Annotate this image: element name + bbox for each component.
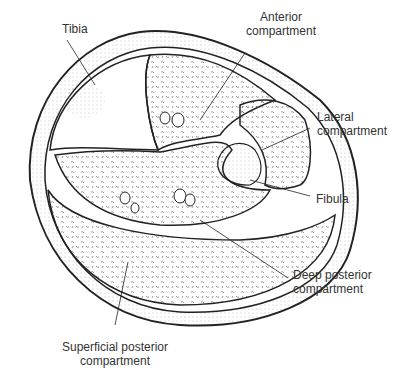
label-line: compartment [236, 24, 326, 38]
label-deep-posterior-compartment: Deep posterior compartment [293, 268, 372, 296]
label-line: compartment [55, 354, 175, 368]
label-line: Deep posterior [293, 268, 372, 282]
label-lateral-compartment: Lateral compartment [317, 110, 387, 138]
label-anterior-compartment: Anterior compartment [236, 10, 326, 38]
label-superficial-posterior-compartment: Superficial posterior compartment [55, 340, 175, 368]
label-line: compartment [293, 282, 372, 296]
label-tibia: Tibia [62, 22, 88, 36]
label-line: Superficial posterior [55, 340, 175, 354]
label-fibula: Fibula [316, 192, 349, 206]
leg-cross-section-diagram [0, 0, 398, 378]
tibia-marrow [65, 82, 105, 118]
label-line: Anterior [236, 10, 326, 24]
label-line: compartment [317, 124, 387, 138]
label-line: Lateral [317, 110, 387, 124]
